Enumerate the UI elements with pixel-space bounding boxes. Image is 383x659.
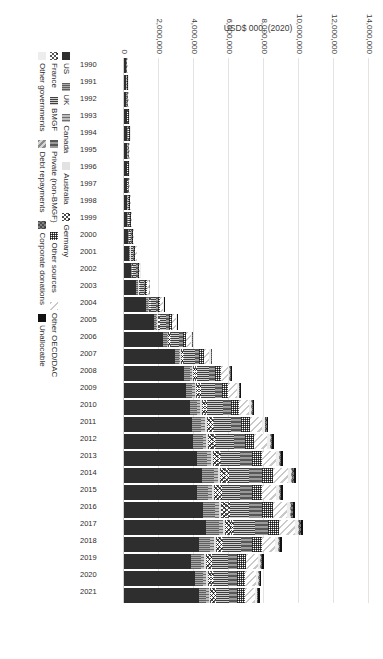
category-tick-label: 2011 <box>80 417 96 426</box>
legend-item-corporate[interactable]: Corporate donations <box>38 221 47 305</box>
legend-item-otheroecd[interactable]: Other OECD/DAC <box>50 302 59 377</box>
bar-segment-canada <box>203 571 206 586</box>
bar-2006[interactable] <box>124 332 369 347</box>
legend-item-debt[interactable]: Debt repayments <box>38 140 47 212</box>
bar-segment-canada <box>215 502 219 517</box>
bar-2015[interactable] <box>124 485 369 500</box>
bar-segment-germany <box>193 366 195 381</box>
bar-segment-australia <box>192 366 193 381</box>
bar-segment-othergov <box>276 451 279 466</box>
bar-1990[interactable] <box>124 58 369 73</box>
bars-container <box>124 58 369 603</box>
bar-segment-us <box>124 366 184 381</box>
bar-segment-otheroecd <box>129 109 130 124</box>
legend-swatch-france-icon <box>51 52 59 60</box>
bar-2010[interactable] <box>124 400 369 415</box>
bar-2007[interactable] <box>124 349 369 364</box>
bar-2012[interactable] <box>124 434 369 449</box>
bar-1992[interactable] <box>124 92 369 107</box>
bar-segment-otheroecd <box>254 434 267 449</box>
bar-segment-othergov <box>275 537 278 552</box>
legend-item-us[interactable]: US <box>62 52 71 74</box>
bar-segment-us <box>124 554 191 569</box>
bar-segment-canada <box>179 349 181 364</box>
bar-segment-bmgf <box>201 383 215 398</box>
bar-2018[interactable] <box>124 537 369 552</box>
bar-2001[interactable] <box>124 246 369 261</box>
bar-2017[interactable] <box>124 520 369 535</box>
legend-item-unallocable[interactable]: Unallocable <box>38 314 47 367</box>
bar-2016[interactable] <box>124 502 369 517</box>
bar-segment-otheroecd <box>279 520 295 535</box>
bar-2009[interactable] <box>124 383 369 398</box>
bar-2005[interactable] <box>124 314 369 329</box>
bar-2019[interactable] <box>124 554 369 569</box>
legend-item-france[interactable]: France <box>50 52 59 88</box>
bar-segment-us <box>124 588 199 603</box>
bar-1993[interactable] <box>124 109 369 124</box>
bar-segment-canada <box>206 588 209 603</box>
bar-1991[interactable] <box>124 75 369 90</box>
bar-segment-uk <box>186 383 192 398</box>
bar-2000[interactable] <box>124 229 369 244</box>
legend-item-private[interactable]: Private (non-BMGF) <box>50 140 59 223</box>
bar-1994[interactable] <box>124 126 369 141</box>
bar-segment-unallocable <box>281 451 283 466</box>
bar-segment-uk <box>197 451 208 466</box>
bar-segment-othersources <box>170 314 173 329</box>
bar-2002[interactable] <box>124 263 369 278</box>
category-tick-label: 2015 <box>80 485 97 494</box>
bar-2003[interactable] <box>124 280 369 295</box>
category-tick-label: 2018 <box>80 536 97 545</box>
bar-segment-canada <box>214 468 218 483</box>
bar-segment-private <box>144 280 146 295</box>
bar-segment-otheroecd <box>139 263 141 278</box>
bar-segment-corporate <box>280 451 281 466</box>
bar-segment-germany <box>208 571 212 586</box>
bar-segment-private <box>209 366 215 381</box>
category-tick-label: 2021 <box>80 587 97 596</box>
legend-item-othergov[interactable]: Other governments <box>38 52 47 131</box>
bar-segment-australia <box>209 588 210 603</box>
bar-2020[interactable] <box>124 571 369 586</box>
bar-1996[interactable] <box>124 161 369 176</box>
legend-item-germany[interactable]: Germany <box>62 213 71 257</box>
bar-segment-corporate <box>261 554 262 569</box>
bar-1999[interactable] <box>124 212 369 227</box>
bar-segment-private <box>195 349 200 364</box>
bar-segment-corporate <box>230 366 231 381</box>
bar-segment-germany <box>132 263 133 278</box>
bar-segment-canada <box>207 451 211 466</box>
bar-segment-private <box>128 143 129 158</box>
legend-item-australia[interactable]: Australia <box>62 162 71 204</box>
bar-segment-corporate <box>211 349 212 364</box>
bar-segment-uk <box>127 126 128 141</box>
bar-segment-france <box>213 434 216 449</box>
bar-segment-canada <box>156 314 157 329</box>
bar-1995[interactable] <box>124 143 369 158</box>
legend-item-uk[interactable]: UK <box>62 83 71 105</box>
bar-2013[interactable] <box>124 451 369 466</box>
legend-item-canada[interactable]: Canada <box>62 114 71 153</box>
bar-segment-othersources <box>262 468 273 483</box>
bar-segment-corporate <box>280 485 281 500</box>
bar-1997[interactable] <box>124 178 369 193</box>
bar-2021[interactable] <box>124 588 369 603</box>
bar-segment-canada <box>197 400 200 415</box>
legend-item-bmgf[interactable]: BMGF <box>50 97 59 131</box>
bar-segment-australia <box>204 554 206 569</box>
bar-2008[interactable] <box>124 366 369 381</box>
bar-segment-private <box>179 332 183 347</box>
bar-2014[interactable] <box>124 468 369 483</box>
bar-segment-debt <box>258 571 259 586</box>
bar-segment-germany <box>213 451 218 466</box>
bar-segment-france <box>214 588 216 603</box>
bar-segment-othersources <box>183 332 186 347</box>
bar-segment-bmgf <box>197 366 209 381</box>
bar-2011[interactable] <box>124 417 369 432</box>
bar-segment-germany <box>206 554 210 569</box>
legend-item-othersources[interactable]: Other sources <box>50 232 59 293</box>
bar-2004[interactable] <box>124 297 369 312</box>
bar-1998[interactable] <box>124 195 369 210</box>
legend-row-3: Other governmentsDebt repaymentsCorporat… <box>38 52 47 652</box>
